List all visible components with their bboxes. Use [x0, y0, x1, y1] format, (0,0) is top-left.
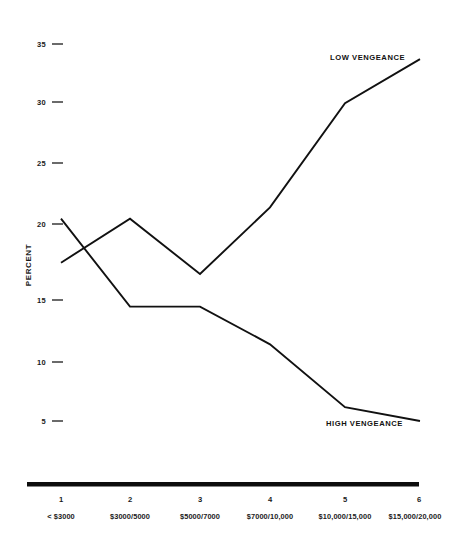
x-tick-number: 2	[128, 495, 132, 504]
y-tick-label: 25	[37, 159, 46, 168]
series-label-high-vengeance: HIGH VENGEANCE	[326, 419, 403, 428]
y-tick-label: 15	[37, 296, 46, 305]
x-axis-numbers: 1 2 3 4 5 6	[59, 495, 421, 504]
y-tick-35: 35	[37, 40, 63, 49]
y-axis-title: PERCENT	[24, 244, 33, 286]
y-tick-label: 30	[37, 98, 46, 107]
y-tick-25: 25	[37, 159, 63, 168]
series-label-low-vengeance: LOW VENGEANCE	[330, 53, 405, 62]
x-tick-number: 5	[343, 495, 348, 504]
y-tick-20: 20	[37, 220, 63, 229]
y-tick-label: 5	[42, 417, 46, 426]
y-tick-5: 5	[42, 417, 63, 426]
x-category-label: $7000/10,000	[247, 512, 293, 521]
y-tick-label: 20	[37, 220, 46, 229]
x-tick-number: 1	[59, 495, 64, 504]
y-tick-15: 15	[37, 296, 63, 305]
y-axis-ticks: 35 30 25 20 15 10	[37, 40, 63, 426]
y-tick-label: 10	[37, 358, 46, 367]
x-category-label: < $3000	[47, 512, 75, 521]
x-category-label: $3000/5000	[110, 512, 150, 521]
chart-figure: 35 30 25 20 15 10	[0, 0, 457, 547]
x-category-label: $15,000/20,000	[389, 512, 442, 521]
y-tick-30: 30	[37, 98, 63, 107]
x-tick-number: 3	[198, 495, 202, 504]
x-axis-bar	[27, 482, 419, 487]
x-tick-number: 4	[268, 495, 273, 504]
x-category-label: $10,000/15,000	[319, 512, 372, 521]
y-tick-10: 10	[37, 358, 63, 367]
series-line-high-vengeance	[61, 219, 420, 421]
line-chart-canvas: 35 30 25 20 15 10	[0, 0, 457, 547]
series-line-low-vengeance	[61, 59, 420, 274]
y-tick-label: 35	[37, 40, 46, 49]
x-category-label: $5000/7000	[180, 512, 220, 521]
x-axis-categories: < $3000 $3000/5000 $5000/7000 $7000/10,0…	[47, 512, 441, 521]
x-tick-number: 6	[417, 495, 421, 504]
